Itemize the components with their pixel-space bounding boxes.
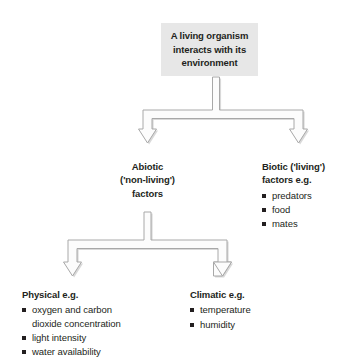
list-item: water availability bbox=[22, 345, 172, 358]
node-abiotic-heading-line-1: Abiotic bbox=[94, 160, 201, 173]
arrow-split-top-shadow bbox=[140, 79, 309, 145]
node-physical: Physical e.g. oxygen and carbon dioxide … bbox=[22, 288, 172, 359]
root-line-3: environment bbox=[171, 56, 249, 69]
node-biotic-heading-line-1: Biotic ('living') bbox=[262, 160, 352, 173]
node-abiotic-heading-line-3: factors bbox=[94, 187, 201, 200]
node-biotic-heading: Biotic ('living') factors e.g. bbox=[262, 160, 352, 187]
root-statement-box: A living organism interacts with its env… bbox=[161, 23, 258, 76]
list-item-line-1: oxygen and carbon bbox=[32, 304, 112, 315]
arrow-split-bottom bbox=[64, 212, 232, 276]
node-abiotic-heading: Abiotic ('non-living') factors bbox=[94, 160, 201, 200]
node-abiotic: Abiotic ('non-living') factors bbox=[94, 160, 201, 200]
root-line-2: interacts with its bbox=[171, 43, 249, 56]
node-abiotic-heading-line-2: ('non-living') bbox=[94, 173, 201, 186]
node-biotic: Biotic ('living') factors e.g. predators… bbox=[262, 160, 352, 231]
node-climatic-heading-line-1: Climatic e.g. bbox=[190, 288, 310, 301]
flow-diagram: A living organism interacts with its env… bbox=[0, 0, 352, 359]
arrowhead-climatic bbox=[214, 262, 232, 276]
list-item-line-2: dioxide concentration bbox=[32, 317, 172, 330]
arrow-split-bottom-shadow bbox=[65, 214, 233, 278]
list-item: food bbox=[262, 203, 352, 216]
root-statement-text: A living organism interacts with its env… bbox=[167, 29, 253, 69]
node-biotic-heading-line-2: factors e.g. bbox=[262, 173, 352, 186]
node-climatic-list: temperature humidity bbox=[190, 303, 310, 330]
root-line-1: A living organism bbox=[171, 29, 249, 42]
list-item: mates bbox=[262, 217, 352, 230]
node-biotic-list: predators food mates bbox=[262, 189, 352, 230]
list-item: light intensity bbox=[22, 331, 172, 344]
node-climatic: Climatic e.g. temperature humidity bbox=[190, 288, 310, 332]
list-item: temperature bbox=[190, 303, 310, 316]
list-item: humidity bbox=[190, 318, 310, 331]
node-physical-list: oxygen and carbon dioxide concentration … bbox=[22, 303, 172, 357]
arrow-split-top bbox=[139, 77, 308, 143]
node-climatic-heading: Climatic e.g. bbox=[190, 288, 310, 301]
node-physical-heading-line-1: Physical e.g. bbox=[22, 288, 172, 301]
node-physical-heading: Physical e.g. bbox=[22, 288, 172, 301]
list-item: predators bbox=[262, 189, 352, 202]
list-item: oxygen and carbon dioxide concentration bbox=[22, 303, 172, 329]
